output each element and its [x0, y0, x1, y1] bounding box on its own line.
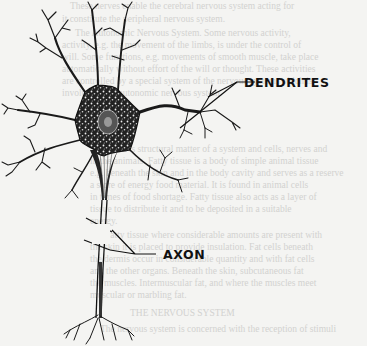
axon-core: [99, 262, 102, 318]
axon-label: AXON: [163, 247, 205, 262]
dendrites-leader-lower: [180, 82, 237, 128]
dendrites-label: DENDRITES: [244, 75, 330, 90]
axon-break: [84, 218, 112, 250]
axon-terminals: [64, 315, 134, 344]
axon-leader: [110, 230, 156, 254]
neuron-diagram: [0, 0, 367, 346]
nucleolus: [104, 117, 112, 127]
